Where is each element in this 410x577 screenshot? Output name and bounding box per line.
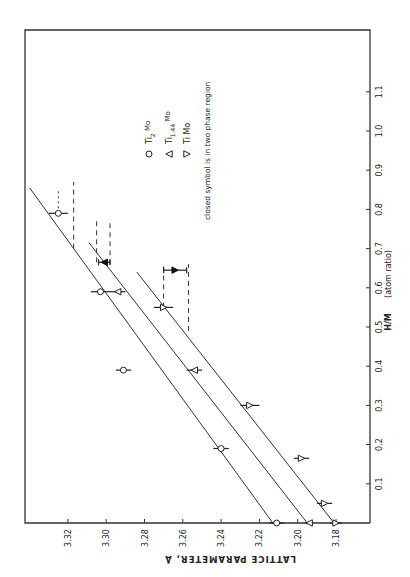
y-tick-label: 3.30 bbox=[102, 529, 111, 547]
x-tick-label: 0.2 bbox=[375, 438, 384, 451]
x-axis-label: H/M bbox=[384, 313, 393, 331]
h-m-axis-ticks: 0.10.20.30.40.50.60.70.80.91.01.1 bbox=[366, 85, 384, 490]
y-tick-label: 3.32 bbox=[64, 529, 73, 547]
x-tick-label: 0.3 bbox=[375, 399, 384, 412]
chart: 0.10.20.30.40.50.60.70.80.91.01.1 3.183.… bbox=[0, 0, 410, 577]
plot-frame bbox=[25, 30, 370, 523]
data-point-triangle-down bbox=[298, 455, 304, 461]
legend-marker-triangle-up bbox=[166, 151, 172, 157]
y-tick-label: 3.20 bbox=[294, 529, 303, 547]
axis-labels: H/M (atom ratio) LATTICE PARAMETER, Å bbox=[164, 250, 393, 564]
x-tick-label: 0.6 bbox=[375, 281, 384, 294]
legend-entry: Ti Mo bbox=[183, 123, 192, 158]
legend-marker-circle bbox=[146, 151, 152, 157]
x-tick-label: 0.1 bbox=[375, 477, 384, 490]
data-point-triangle-up bbox=[306, 520, 312, 526]
x-tick-label: 1.0 bbox=[375, 125, 384, 138]
data-point-triangle-down bbox=[321, 500, 327, 506]
x-tick-label: 1.1 bbox=[375, 85, 384, 98]
fit-line-timo bbox=[137, 272, 334, 523]
fit-line-ti144mo bbox=[89, 243, 307, 523]
data-point-circle bbox=[218, 446, 224, 452]
phase-boundary-lines bbox=[58, 182, 188, 331]
data-point-circle bbox=[120, 367, 126, 373]
legend-entry: Ti2 Mo bbox=[144, 121, 156, 157]
legend: Ti2 MoTi1.44 MoTi Moclosed symbol is in … bbox=[144, 81, 212, 220]
data-point-circle bbox=[274, 520, 280, 526]
legend-marker-triangle-down bbox=[184, 151, 190, 157]
legend-label: Ti2 Mo bbox=[144, 121, 156, 145]
data-points bbox=[49, 210, 342, 526]
x-axis-label-units: (atom ratio) bbox=[384, 250, 393, 298]
fit-line-ti2mo bbox=[30, 188, 273, 523]
data-point-circle bbox=[97, 289, 103, 295]
legend-entry: Ti1.44 Mo bbox=[164, 111, 176, 157]
data-point-triangle-down bbox=[247, 402, 253, 408]
y-axis-label: LATTICE PARAMETER, Å bbox=[164, 554, 296, 564]
data-point-triangle-up bbox=[191, 367, 197, 373]
x-tick-label: 0.4 bbox=[375, 360, 384, 373]
y-tick-label: 3.24 bbox=[217, 529, 226, 547]
x-tick-label: 0.7 bbox=[375, 242, 384, 255]
data-point-triangle-down bbox=[172, 267, 178, 273]
x-tick-label: 0.9 bbox=[375, 164, 384, 177]
fit-lines bbox=[30, 188, 334, 523]
y-tick-label: 3.26 bbox=[179, 529, 188, 547]
legend-label: Ti Mo bbox=[183, 123, 192, 145]
y-tick-label: 3.18 bbox=[332, 529, 341, 547]
data-point-triangle-up bbox=[114, 289, 120, 295]
legend-label: Ti1.44 Mo bbox=[164, 111, 176, 145]
x-tick-label: 0.5 bbox=[375, 321, 384, 334]
data-point-circle bbox=[55, 210, 61, 216]
y-tick-label: 3.28 bbox=[141, 529, 150, 547]
y-tick-label: 3.22 bbox=[255, 529, 264, 547]
plot-border bbox=[25, 30, 370, 523]
x-tick-label: 0.8 bbox=[375, 203, 384, 216]
legend-note: closed symbol is in two phase region bbox=[203, 81, 212, 220]
